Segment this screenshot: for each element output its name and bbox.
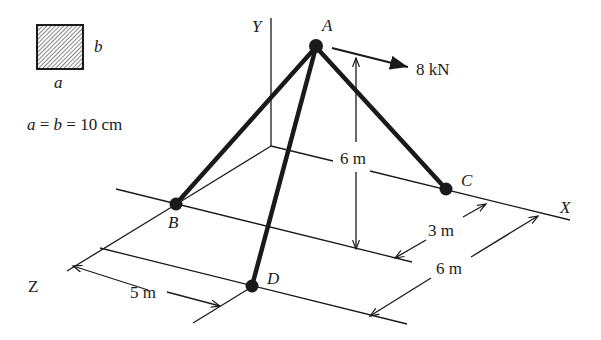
z-axis-line <box>67 205 175 271</box>
z-span-label: 5 m <box>130 283 156 302</box>
load-arrow <box>332 48 408 67</box>
c-offset-label: 3 m <box>428 221 454 240</box>
joint-a-label: A <box>321 16 333 35</box>
origin-to-b-line <box>180 146 271 202</box>
joint-c-label: C <box>461 171 473 190</box>
z-span-arrow-right <box>167 292 220 306</box>
x-span-arrow-up <box>471 216 538 257</box>
c-offset-arrow-down <box>395 240 426 258</box>
c-offset-arrow-up <box>463 204 486 217</box>
x-span-label: 6 m <box>436 259 462 278</box>
section-dimension-text: a = b = 10 cm <box>27 115 122 134</box>
joint-d <box>246 280 259 293</box>
section-height-label: b <box>94 37 103 56</box>
z-axis-label: Z <box>28 277 38 296</box>
x-span-arrow-down <box>370 278 431 316</box>
joint-c <box>440 183 453 196</box>
height-dim-label: 6 m <box>340 149 366 168</box>
y-axis-label: Y <box>252 17 263 36</box>
truss-diagram: b a a = b = 10 cm Y X Z 6 m 3 m <box>0 0 601 340</box>
cross-section-square <box>37 25 83 69</box>
origin-x-line-left <box>271 146 333 161</box>
joint-b-label: B <box>168 213 179 232</box>
x-axis-label: X <box>559 198 571 217</box>
joint-a <box>309 39 323 53</box>
b-parallel-line <box>116 189 412 262</box>
joint-b <box>170 198 183 211</box>
section-width-label: a <box>54 73 63 92</box>
d-z-tick-line <box>193 288 250 323</box>
joint-d-label: D <box>266 269 280 288</box>
load-label: 8 kN <box>416 60 450 79</box>
